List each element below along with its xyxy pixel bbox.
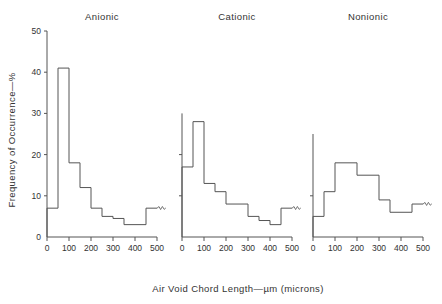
x-tick-label: 200 — [350, 243, 364, 253]
panel-cationic-histogram-steps — [182, 122, 292, 237]
panel-cationic-axes — [179, 113, 292, 241]
panel-nonionic-histogram-steps — [313, 163, 423, 237]
panel-anionic-histogram-steps — [47, 68, 157, 237]
x-tick-label: 400 — [394, 243, 408, 253]
y-axis-title: Frequency of Occurrence—% — [6, 72, 17, 207]
x-tick-label: 400 — [128, 243, 142, 253]
y-tick-label: 50 — [32, 26, 42, 36]
histogram-figure: Frequency of Occurrence—% Air Void Chord… — [0, 0, 442, 304]
x-axis-title: Air Void Chord Length—µm (microns) — [152, 283, 324, 294]
panel-anionic: Anionic 010020030040050001020304050 — [32, 11, 166, 253]
panel-title-cationic: Cationic — [218, 11, 256, 22]
panel-title-anionic: Anionic — [85, 11, 119, 22]
panel-cationic: Cationic 0100200300400500 — [179, 11, 301, 253]
x-tick-label: 0 — [311, 243, 316, 253]
panel-nonionic: Nonionic 0100200300400500 — [310, 11, 432, 253]
x-tick-label: 300 — [241, 243, 255, 253]
y-tick-label: 30 — [32, 108, 42, 118]
x-tick-label: 500 — [150, 243, 164, 253]
x-tick-label: 0 — [180, 243, 185, 253]
panel-anionic-axes — [44, 31, 157, 241]
y-tick-label: 10 — [32, 191, 42, 201]
panel-anionic-ticklabels: 010020030040050001020304050 — [32, 26, 165, 253]
panel-nonionic-axes — [310, 134, 423, 241]
y-tick-label: 20 — [32, 150, 42, 160]
x-tick-label: 200 — [219, 243, 233, 253]
x-tick-label: 100 — [328, 243, 342, 253]
y-tick-label: 40 — [32, 67, 42, 77]
panel-nonionic-ticklabels: 0100200300400500 — [311, 243, 431, 253]
panel-cationic-end-marker — [292, 206, 301, 209]
y-tick-label: 0 — [36, 232, 41, 242]
x-tick-label: 400 — [263, 243, 277, 253]
x-tick-label: 100 — [197, 243, 211, 253]
panel-cationic-ticklabels: 0100200300400500 — [180, 243, 300, 253]
x-tick-label: 500 — [416, 243, 430, 253]
x-tick-label: 200 — [84, 243, 98, 253]
x-tick-label: 500 — [285, 243, 299, 253]
panel-anionic-end-marker — [157, 206, 166, 209]
panel-nonionic-end-marker — [423, 202, 432, 205]
x-tick-label: 100 — [62, 243, 76, 253]
panel-title-nonionic: Nonionic — [348, 11, 388, 22]
x-tick-label: 300 — [106, 243, 120, 253]
figure-container: Frequency of Occurrence—% Air Void Chord… — [0, 0, 442, 304]
x-tick-label: 0 — [45, 243, 50, 253]
x-tick-label: 300 — [372, 243, 386, 253]
